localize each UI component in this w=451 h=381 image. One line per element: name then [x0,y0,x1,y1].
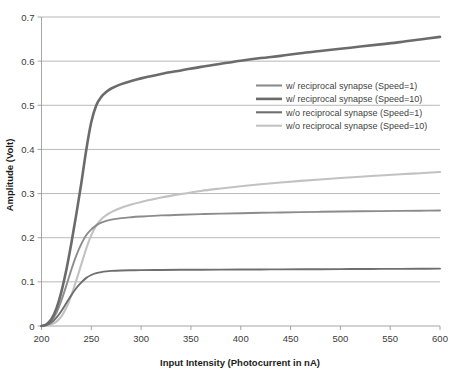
y-tick-label: 0.6 [21,56,34,67]
y-tick-label: 0.4 [21,144,34,155]
x-tick-label: 250 [83,333,99,344]
y-axis-ticks [38,17,42,326]
y-tick-label: 0.5 [21,100,34,111]
x-tick-label: 350 [183,333,199,344]
x-tick-label: 450 [283,333,299,344]
y-tick-label: 0 [29,321,34,332]
legend-label: w/o reciprocal synapse (Speed=10) [285,121,427,131]
x-axis-title: Input Intensity (Photocurrent in nA) [160,357,320,368]
legend-label: w/o reciprocal synapse (Speed=1) [285,108,422,118]
y-axis-tick-labels: 00.10.20.30.40.50.60.7 [21,12,34,332]
y-tick-label: 0.3 [21,188,34,199]
x-axis-tick-labels: 200250300350400450500550600 [34,333,448,344]
axes [42,17,441,326]
x-tick-label: 300 [133,333,149,344]
gridlines [42,17,441,282]
x-tick-label: 500 [332,333,348,344]
y-tick-label: 0.1 [21,276,34,287]
legend-label: w/ reciprocal synapse (Speed=10) [285,94,422,104]
x-tick-label: 200 [34,333,50,344]
series-line [42,172,441,326]
y-tick-label: 0.2 [21,232,34,243]
line-chart: 200250300350400450500550600 00.10.20.30.… [0,0,451,381]
x-tick-label: 600 [432,333,448,344]
series-line [42,269,441,326]
x-tick-label: 550 [382,333,398,344]
chart-legend: w/ reciprocal synapse (Speed=1)w/ recipr… [256,81,427,131]
y-tick-label: 0.7 [21,12,34,23]
y-axis-title: Amplitude (Volt) [4,139,15,212]
legend-label: w/ reciprocal synapse (Speed=1) [285,81,417,91]
x-tick-label: 400 [233,333,249,344]
x-axis-ticks [42,326,441,330]
chart-canvas: 200250300350400450500550600 00.10.20.30.… [0,0,451,381]
